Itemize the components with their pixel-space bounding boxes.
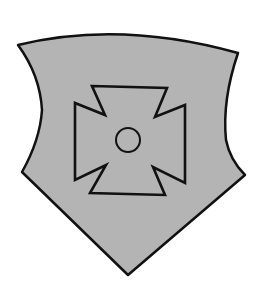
shield-illustration	[0, 0, 261, 307]
shield-svg	[0, 0, 261, 307]
roundel-icon	[116, 128, 140, 152]
